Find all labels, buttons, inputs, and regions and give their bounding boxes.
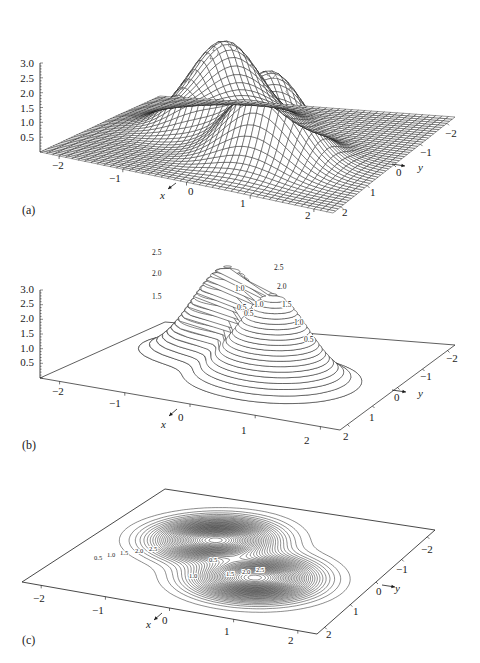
x-tick: 0 — [162, 615, 168, 626]
x-axis-label: x — [161, 419, 166, 430]
svg-text:0.5: 0.5 — [244, 309, 254, 318]
y-tick: 1 — [369, 412, 375, 423]
x-axis-label: x — [160, 190, 165, 201]
svg-text:1.5: 1.5 — [120, 549, 128, 556]
z-tick: 2.0 — [8, 313, 34, 324]
z-tick: 1.0 — [8, 343, 34, 354]
z-tick: 3.0 — [8, 58, 34, 69]
y-tick: 0 — [396, 167, 402, 178]
x-tick: 2 — [288, 635, 294, 646]
y-tick: −2 — [446, 353, 458, 364]
svg-text:2.0: 2.0 — [152, 269, 162, 278]
y-axis-label: y — [418, 162, 423, 173]
x-tick: 0 — [188, 186, 194, 197]
svg-text:2.0: 2.0 — [135, 547, 143, 554]
planar-contour-plot: 0.51.01.52.02.50.51.01.52.02.5 — [0, 445, 480, 663]
y-tick: −2 — [421, 544, 433, 555]
x-axis-label: x — [146, 619, 151, 630]
panel-a: 3.0 2.5 2.0 1.5 1.0 0.5 −2 −1 0 1 2 x −2… — [0, 0, 480, 220]
contour-surface-plot: 2.52.01.51.00.51.00.52.52.01.51.00.5 — [0, 220, 480, 445]
panel-label: (c) — [22, 633, 35, 648]
z-tick: 3.0 — [8, 284, 34, 295]
svg-text:1.5: 1.5 — [152, 292, 162, 301]
y-tick: −2 — [445, 128, 457, 139]
svg-text:2.5: 2.5 — [274, 263, 284, 272]
svg-text:1.5: 1.5 — [282, 300, 292, 309]
y-axis-label: y — [418, 388, 423, 399]
panel-b: 2.52.01.51.00.51.00.52.52.01.51.00.5 3.0… — [0, 220, 480, 445]
svg-text:0.5: 0.5 — [94, 554, 102, 561]
z-tick: 2.5 — [8, 73, 34, 84]
x-tick: −2 — [52, 386, 64, 397]
z-tick: 2.5 — [8, 298, 34, 309]
panel-c: 0.51.01.52.02.50.51.01.52.02.5 −2 −1 0 1… — [0, 445, 480, 663]
x-tick: 1 — [224, 626, 230, 637]
z-tick: 2.0 — [8, 88, 34, 99]
svg-text:1.0: 1.0 — [107, 551, 115, 558]
y-tick: −1 — [420, 147, 432, 158]
y-axis-label: y — [395, 583, 400, 594]
y-tick: 2 — [343, 431, 349, 442]
svg-text:2.5: 2.5 — [149, 545, 157, 552]
svg-text:2.5: 2.5 — [256, 566, 264, 573]
x-tick: 0 — [178, 412, 184, 423]
svg-text:1.5: 1.5 — [226, 570, 234, 577]
x-tick: 1 — [241, 425, 247, 436]
y-tick: 2 — [326, 629, 332, 640]
x-tick: −1 — [109, 173, 121, 184]
z-tick: 1.5 — [8, 103, 34, 114]
y-tick: 0 — [394, 392, 400, 403]
y-tick: 1 — [353, 606, 359, 617]
svg-text:1.0: 1.0 — [254, 300, 264, 309]
svg-text:0.5: 0.5 — [209, 556, 217, 563]
svg-text:1.0: 1.0 — [235, 284, 245, 293]
svg-text:2.5: 2.5 — [152, 248, 162, 257]
wireframe-surface-plot — [0, 0, 480, 220]
y-tick: −1 — [420, 371, 432, 382]
z-tick: 1.0 — [8, 117, 34, 128]
svg-text:2.0: 2.0 — [242, 568, 250, 575]
x-tick: −1 — [92, 605, 104, 616]
panel-label: (a) — [22, 203, 35, 218]
x-tick: −2 — [33, 593, 45, 604]
svg-text:0.5: 0.5 — [304, 335, 314, 344]
x-tick: −2 — [52, 160, 64, 171]
z-tick: 0.5 — [8, 357, 34, 368]
z-tick: 0.5 — [8, 132, 34, 143]
y-tick: 2 — [342, 207, 348, 218]
y-tick: −1 — [396, 564, 408, 575]
svg-text:1.0: 1.0 — [294, 318, 304, 327]
y-tick: 0 — [376, 586, 382, 597]
svg-text:1.0: 1.0 — [189, 572, 197, 579]
x-tick: −1 — [109, 398, 121, 409]
y-tick: 1 — [370, 187, 376, 198]
z-tick: 1.5 — [8, 328, 34, 339]
x-tick: 1 — [240, 198, 246, 209]
svg-text:2.0: 2.0 — [277, 282, 287, 291]
